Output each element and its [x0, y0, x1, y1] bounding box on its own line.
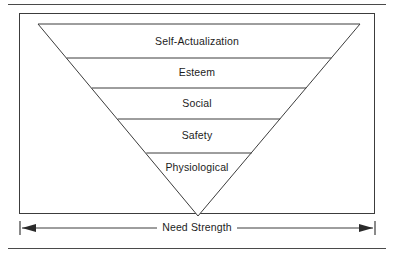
maslow-hierarchy-figure: Self-Actualization Esteem Social Safety …: [0, 0, 394, 255]
tier-label-safety: Safety: [0, 129, 394, 141]
tier-label-physiological: Physiological: [0, 161, 394, 173]
axis-caption: Need Strength: [0, 221, 394, 234]
tier-label-esteem: Esteem: [0, 66, 394, 78]
axis-caption-text: Need Strength: [157, 221, 237, 233]
tier-label-social: Social: [0, 97, 394, 109]
bottom-horizontal-rule: [8, 248, 386, 249]
top-horizontal-rule: [8, 4, 386, 5]
tier-label-self-actualization: Self-Actualization: [0, 35, 394, 47]
